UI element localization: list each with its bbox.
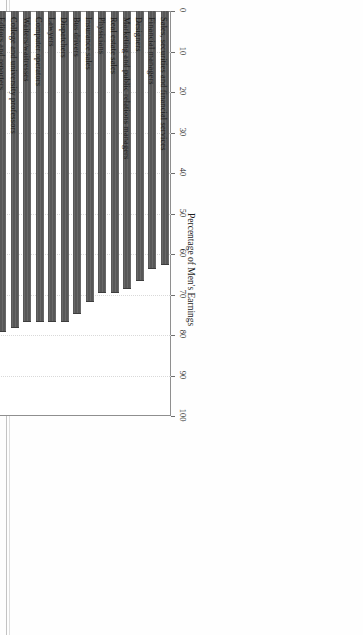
category-label: Financial managers: [147, 17, 155, 85]
category-label: Marketing and public relations managers: [122, 17, 130, 159]
value-tick-mark-80: [171, 335, 175, 336]
category-label: Editors and reporters: [0, 17, 5, 90]
scanned-page: + 0 0 0102030405060708090100 Percentage …: [0, 0, 363, 635]
value-tick-mark-70: [171, 295, 175, 296]
category-label: College and university professors: [9, 17, 17, 134]
category-label: Bus drivers: [72, 17, 80, 57]
value-tick-mark-60: [171, 254, 175, 255]
value-tick-label-30: 30: [178, 124, 188, 140]
category-label: Real estate sales: [109, 17, 117, 74]
value-tick-label-10: 10: [178, 43, 188, 59]
value-tick-mark-90: [171, 376, 175, 377]
value-tick-mark-40: [171, 173, 175, 174]
value-tick-label-40: 40: [178, 164, 188, 180]
value-tick-label-90: 90: [178, 367, 188, 383]
value-tick-mark-30: [171, 133, 175, 134]
value-tick-mark-100: [171, 416, 175, 417]
value-tick-label-20: 20: [178, 83, 188, 99]
value-tick-label-0: 0: [178, 2, 188, 18]
value-tick-mark-0: [171, 11, 175, 12]
category-label: Designers: [134, 17, 142, 52]
category-label: Sales, securities and financial services: [159, 17, 167, 151]
value-tick-mark-10: [171, 52, 175, 53]
category-label: Dispatchers: [59, 17, 67, 58]
category-label: Insurance sales: [84, 17, 92, 70]
category-label: Waiters/waitresses: [22, 17, 30, 82]
value-tick-mark-20: [171, 92, 175, 93]
value-tick-label-100: 100: [178, 407, 188, 423]
category-label: Physicians: [97, 17, 105, 54]
category-label: Computer operators: [34, 17, 42, 86]
category-label: Lawyers: [47, 17, 55, 47]
bar: [48, 11, 56, 322]
value-tick-label-80: 80: [178, 326, 188, 342]
value-tick-mark-50: [171, 214, 175, 215]
